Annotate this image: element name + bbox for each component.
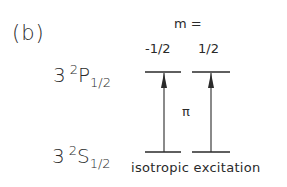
arrowhead-icon	[208, 73, 214, 88]
energy-level-diagram	[0, 0, 287, 187]
pi-polarization-label: π	[182, 104, 190, 119]
caption: isotropic excitation	[131, 160, 261, 175]
arrowhead-icon	[161, 73, 167, 88]
